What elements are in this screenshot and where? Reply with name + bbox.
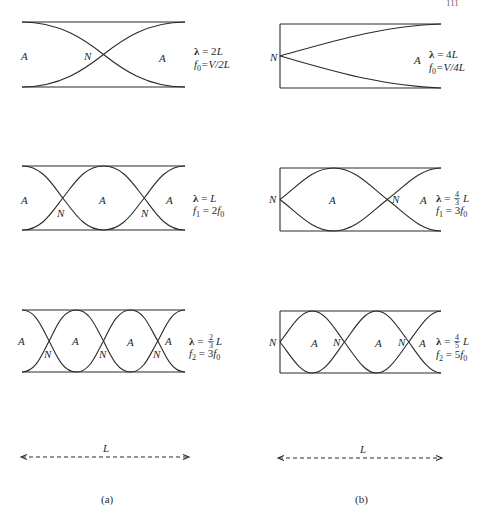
antinode-label: A	[165, 194, 173, 206]
frequency-formula: f1 = 2f0	[193, 204, 224, 219]
node-label: N	[268, 336, 277, 348]
length-label: L	[102, 442, 109, 454]
node-label: N	[391, 193, 400, 205]
standing-wave-diagram: 111 A N A λ = 2L f0=V/2L A N A N A λ = L…	[0, 0, 485, 518]
node-label: N	[83, 50, 92, 62]
antinode-label: A	[310, 337, 318, 349]
antinode-label: A	[164, 335, 172, 347]
frequency-formula: f0=V/4L	[429, 61, 465, 76]
wavelength-formula: λ =	[436, 335, 450, 347]
panel-a-mode-2-tube	[22, 310, 185, 372]
antinode-label: A	[418, 337, 426, 349]
node-label: N	[268, 193, 277, 205]
node-label: N	[43, 348, 52, 360]
antinode-label: A	[158, 52, 166, 64]
frequency-formula: f2 = 5f0	[436, 348, 467, 363]
svg-text:L: L	[462, 192, 469, 204]
antinode-label: A	[98, 194, 106, 206]
panel-a-length-arrow	[21, 455, 189, 460]
length-label: L	[359, 443, 366, 455]
wavelength-formula: λ =	[189, 335, 203, 347]
panel-a-caption: (a)	[101, 493, 114, 506]
wavelength-formula: λ = L	[193, 192, 216, 204]
node-label: N	[140, 207, 149, 219]
antinode-label: A	[419, 194, 427, 206]
antinode-label: A	[374, 337, 382, 349]
wavelength-formula: λ = 4L	[429, 48, 458, 60]
wavelength-formula: λ =	[436, 192, 450, 204]
svg-text:L: L	[462, 335, 469, 347]
frequency-formula: f0=V/2L	[194, 58, 230, 73]
node-label: N	[332, 336, 341, 348]
panel-b-length-arrow	[278, 456, 442, 461]
node-label: N	[152, 348, 161, 360]
antinode-label: A	[328, 194, 336, 206]
panel-b-mode-2-tube	[280, 311, 441, 373]
antinode-label: A	[20, 194, 28, 206]
frequency-formula: f1 = 3f0	[436, 204, 467, 219]
node-label: N	[56, 207, 65, 219]
antinode-label: A	[413, 54, 421, 66]
node-label: N	[98, 348, 107, 360]
antinode-label: A	[17, 335, 25, 347]
panel-b-caption: (b)	[355, 493, 368, 506]
antinode-label: A	[71, 335, 79, 347]
frequency-formula: f2 = 3f0	[189, 347, 220, 362]
node-label: N	[269, 51, 278, 63]
node-label: N	[397, 336, 406, 348]
panel-b-mode-1-tube	[280, 168, 441, 231]
svg-text:L: L	[215, 335, 222, 347]
antinode-label: A	[20, 50, 28, 62]
wavelength-formula: λ = 2L	[194, 45, 223, 57]
page-number: 111	[446, 0, 459, 8]
antinode-label: A	[126, 336, 134, 348]
